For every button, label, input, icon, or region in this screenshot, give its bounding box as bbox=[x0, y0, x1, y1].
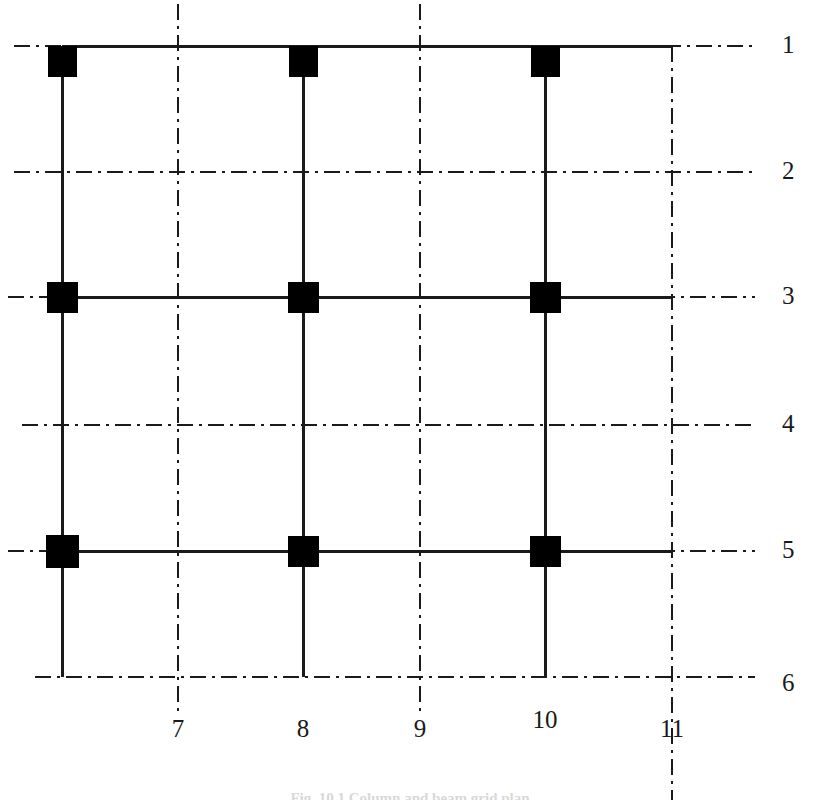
row-label-1: 1 bbox=[782, 32, 795, 57]
column-label-11: 11 bbox=[660, 716, 684, 741]
framing-plan-drawing bbox=[0, 0, 820, 800]
column-label-7: 7 bbox=[172, 716, 185, 741]
vertical-gridlines-group bbox=[178, 4, 672, 800]
column-section-marker bbox=[288, 536, 319, 567]
figure-canvas: 123456 7891011 Fig. 10.1 Column and beam… bbox=[0, 0, 820, 800]
column-lines-group bbox=[62, 46, 545, 677]
row-label-3: 3 bbox=[782, 283, 795, 308]
column-section-marker bbox=[531, 46, 560, 77]
beam-lines-group bbox=[62, 46, 672, 551]
column-section-marker bbox=[46, 535, 79, 568]
column-section-marker bbox=[288, 282, 319, 313]
row-label-5: 5 bbox=[782, 537, 795, 562]
column-section-marker bbox=[530, 282, 561, 313]
row-label-4: 4 bbox=[782, 411, 795, 436]
column-section-marker bbox=[47, 282, 78, 313]
column-label-10: 10 bbox=[533, 707, 558, 732]
horizontal-gridlines-group bbox=[8, 46, 755, 677]
figure-caption: Fig. 10.1 Column and beam grid plan bbox=[0, 790, 820, 800]
row-label-6: 6 bbox=[782, 670, 795, 695]
column-label-9: 9 bbox=[414, 716, 427, 741]
column-section-marker bbox=[48, 46, 77, 77]
row-label-2: 2 bbox=[782, 158, 795, 183]
column-section-marker bbox=[289, 46, 318, 77]
column-label-8: 8 bbox=[297, 716, 310, 741]
column-section-marker bbox=[530, 536, 561, 567]
